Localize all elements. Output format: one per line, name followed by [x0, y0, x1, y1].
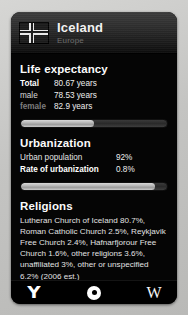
country-info-card: Iceland Europe Life expectancy Total 80.… [11, 12, 177, 304]
row-value: 78.53 years [54, 90, 97, 102]
table-row: Rate of urbanization 0.8% [20, 164, 168, 176]
row-label: female [20, 101, 54, 113]
section-religions: Religions Lutheran Church of Iceland 80.… [20, 200, 168, 281]
table-row: Urban population 92% [20, 152, 168, 164]
page-background: Iceland Europe Life expectancy Total 80.… [0, 0, 188, 315]
y-bookmark-icon: Y [27, 285, 40, 301]
locate-button[interactable] [81, 283, 107, 303]
progress-fill [21, 120, 94, 127]
life-expectancy-rows: Total 80.67 years male 78.53 years femal… [20, 78, 168, 113]
page-title: Iceland [57, 21, 103, 34]
flag-cross-vertical-inner [31, 23, 33, 43]
row-label: Urban population [20, 152, 116, 164]
section-urbanization: Urbanization Urban population 92% Rate o… [20, 137, 168, 191]
section-title-life-expectancy: Life expectancy [20, 63, 168, 75]
header-titles: Iceland Europe [57, 21, 103, 45]
table-row: Total 80.67 years [20, 78, 168, 90]
section-title-urbanization: Urbanization [20, 137, 168, 149]
progress-fill [21, 183, 155, 190]
wikipedia-w-icon: W [146, 285, 161, 301]
wikipedia-button[interactable]: W [141, 283, 167, 303]
card-header: Iceland Europe [11, 12, 177, 54]
urbanization-rows: Urban population 92% Rate of urbanizatio… [20, 152, 168, 176]
page-subtitle: Europe [57, 37, 103, 45]
row-value: 0.8% [116, 164, 135, 176]
row-label: Total [20, 78, 54, 90]
row-value: 82.9 years [54, 101, 92, 113]
row-value: 80.67 years [54, 78, 97, 90]
section-title-religions: Religions [20, 200, 168, 212]
table-row: female 82.9 years [20, 101, 168, 113]
row-label: male [20, 90, 54, 102]
religions-body-text: Lutheran Church of Iceland 80.7%, Roman … [20, 215, 168, 281]
target-dot-icon [87, 286, 101, 300]
row-value: 92% [116, 152, 132, 164]
life-expectancy-progress-bar [20, 119, 168, 128]
target-center-dot [92, 290, 97, 295]
card-body: Life expectancy Total 80.67 years male 7… [11, 54, 177, 280]
flag-cross-horizontal-inner [20, 31, 48, 33]
table-row: male 78.53 years [20, 90, 168, 102]
bottom-toolbar: Y W [11, 280, 177, 304]
section-life-expectancy: Life expectancy Total 80.67 years male 7… [20, 63, 168, 128]
urbanization-progress-bar [20, 182, 168, 191]
row-label: Rate of urbanization [20, 164, 116, 176]
iceland-flag-icon [19, 22, 49, 44]
bookmark-button[interactable]: Y [21, 283, 47, 303]
